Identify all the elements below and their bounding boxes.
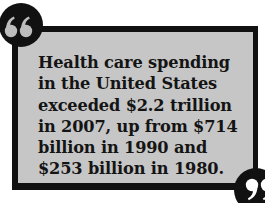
open-quote-glyph — [0, 3, 43, 47]
quote-line-2: in the United States — [38, 73, 238, 94]
close-quote-icon — [234, 168, 265, 203]
close-quote-glyph — [234, 168, 265, 203]
quote-line-4: in 2007, up from $714 — [38, 116, 238, 137]
pull-quote-box: Health care spending in the United State… — [12, 26, 258, 190]
quote-line-6: $253 billion in 1980. — [38, 158, 238, 179]
quote-line-3: exceeded $2.2 trillion — [38, 95, 238, 116]
quote-line-1: Health care spending — [38, 52, 238, 73]
open-quote-icon — [0, 3, 43, 47]
quote-line-5: billion in 1990 and — [38, 137, 238, 158]
pull-quote-text: Health care spending in the United State… — [38, 52, 238, 180]
